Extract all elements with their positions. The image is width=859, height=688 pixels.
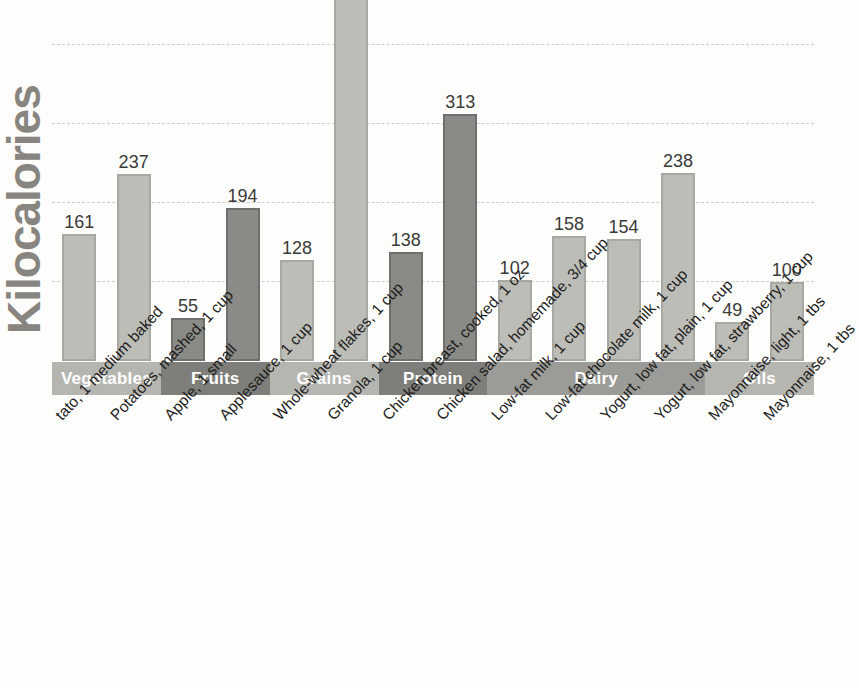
bar: 194 bbox=[226, 208, 260, 361]
gridline bbox=[52, 281, 814, 282]
bar-value-label: 154 bbox=[608, 217, 638, 238]
bar-value-label: 138 bbox=[391, 230, 421, 251]
gridline bbox=[52, 202, 814, 203]
bar-value-label: 237 bbox=[119, 152, 149, 173]
bar-value-label: 158 bbox=[554, 214, 584, 235]
y-axis-title: Kilocalories bbox=[0, 4, 50, 334]
bar-value-label: 238 bbox=[663, 151, 693, 172]
gridline bbox=[52, 44, 814, 45]
bar: 161 bbox=[62, 234, 96, 361]
x-axis-tick-labels: tato, 1 medium bakedPotatoes, mashed, 1 … bbox=[52, 400, 829, 688]
bar-value-label: 194 bbox=[227, 186, 257, 207]
bar: 464 bbox=[334, 0, 368, 361]
bar-value-label: 313 bbox=[445, 92, 475, 113]
gridline bbox=[52, 123, 814, 124]
bar-value-label: 55 bbox=[178, 296, 198, 317]
bar-value-label: 128 bbox=[282, 238, 312, 259]
bar-value-label: 161 bbox=[64, 212, 94, 233]
